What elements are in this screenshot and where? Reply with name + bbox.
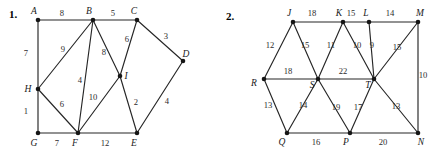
graph-2-node-labels: JKLMRSTQPN [250, 8, 425, 147]
edge-weight-M-N: 10 [419, 70, 428, 80]
node-label-Q: Q [279, 137, 286, 147]
edge-weight-S-T: 22 [339, 66, 348, 76]
edge-weight-R-S: 18 [284, 66, 293, 76]
edge-weight-H-F: 6 [60, 99, 65, 109]
edge-weight-S-P: 19 [332, 102, 341, 112]
node-label-I: I [123, 71, 128, 81]
edge-weight-S-Q: 14 [299, 100, 308, 110]
graph-edge-C-I [120, 20, 137, 76]
edge-weight-B-C: 5 [111, 8, 115, 18]
node-label-L: L [362, 8, 368, 18]
graph-node-K [341, 20, 346, 25]
graph-node-Q [285, 131, 290, 136]
node-label-B: B [86, 6, 92, 16]
edge-weight-I-E: 2 [134, 97, 138, 107]
edge-weight-J-K: 18 [308, 8, 317, 18]
graph-node-I [118, 74, 123, 79]
graph-node-C [135, 18, 140, 23]
graph-1-canvas: 85347171294866102 ABCDEFGHI 1. [0, 0, 218, 153]
edge-weight-B-I: 8 [102, 47, 106, 57]
edge-weight-J-S: 15 [301, 40, 310, 50]
graph-node-S [316, 77, 321, 82]
edge-weight-L-T: 9 [370, 40, 374, 50]
node-label-T: T [365, 80, 371, 90]
node-label-R: R [250, 78, 257, 88]
figure-1-number: 1. [9, 8, 18, 20]
edge-weight-D-E: 4 [165, 96, 170, 106]
edge-weight-T-N: 13 [392, 101, 401, 111]
edge-weight-A-B: 8 [60, 8, 64, 18]
graph-node-R [262, 77, 267, 82]
graph-figure-1: 85347171294866102 ABCDEFGHI 1. [0, 0, 218, 153]
edge-weight-F-I: 10 [89, 92, 98, 102]
edge-weight-G-F: 7 [55, 138, 60, 148]
edge-weight-B-H: 9 [61, 44, 65, 54]
graph-node-G [36, 131, 41, 136]
node-label-D: D [182, 49, 190, 59]
graph-edge-H-F [38, 89, 78, 133]
graph-edge-B-I [93, 20, 120, 76]
edge-weight-M-T: 15 [393, 42, 402, 52]
node-label-C: C [131, 6, 138, 16]
edge-weight-F-E: 12 [101, 138, 110, 148]
graph-1-edges [38, 20, 183, 133]
graph-node-J [291, 20, 296, 25]
node-label-P: P [342, 137, 349, 147]
edge-weight-H-G: 1 [24, 106, 28, 116]
edge-weight-A-H: 7 [24, 48, 29, 58]
figure-2-number: 2. [226, 10, 235, 22]
graph-node-L [367, 20, 372, 25]
edge-weight-T-P: 17 [354, 102, 363, 112]
graph-1-node-labels: ABCDEFGHI [24, 6, 190, 148]
node-label-E: E [130, 138, 137, 148]
graph-node-A [36, 18, 41, 23]
graph-node-F [76, 131, 81, 136]
node-label-F: F [71, 138, 78, 148]
graph-node-N [416, 131, 421, 136]
graph-node-B [91, 18, 96, 23]
node-label-N: N [417, 137, 425, 147]
graph-edge-D-E [137, 61, 183, 133]
edge-weight-K-S: 11 [327, 40, 335, 50]
node-label-J: J [287, 8, 292, 18]
graph-figure-2: 1815141215111091510182213141917131620 JK… [218, 0, 436, 153]
node-label-A: A [30, 6, 37, 16]
edge-weight-B-F: 4 [78, 75, 83, 85]
graph-edge-C-D [137, 20, 183, 61]
graph-node-M [416, 20, 421, 25]
edge-weight-R-Q: 13 [264, 100, 273, 110]
graph-2-edges [264, 22, 418, 133]
edge-weight-P-N: 20 [379, 137, 388, 147]
edge-weight-K-T: 10 [353, 40, 362, 50]
edge-weight-L-M: 14 [386, 8, 395, 18]
edge-weight-C-I: 6 [125, 34, 130, 44]
edge-weight-K-L: 15 [347, 8, 356, 18]
graph-node-E [135, 131, 140, 136]
node-label-S: S [310, 80, 315, 90]
graph-node-P [348, 131, 353, 136]
node-label-K: K [335, 8, 343, 18]
edge-weight-Q-P: 16 [312, 137, 321, 147]
edge-weight-C-D: 3 [164, 31, 168, 41]
exercise-figures-page: 85347171294866102 ABCDEFGHI 1. 181514121… [0, 0, 436, 153]
edge-weight-J-R: 12 [266, 40, 275, 50]
node-label-M: M [415, 8, 425, 18]
graph-node-T [372, 77, 377, 82]
graph-2-canvas: 1815141215111091510182213141917131620 JK… [218, 0, 436, 153]
node-label-H: H [24, 84, 33, 94]
graph-edge-J-S [293, 22, 318, 79]
graph-node-D [181, 59, 186, 64]
graph-node-H [36, 87, 41, 92]
node-label-G: G [31, 138, 38, 148]
